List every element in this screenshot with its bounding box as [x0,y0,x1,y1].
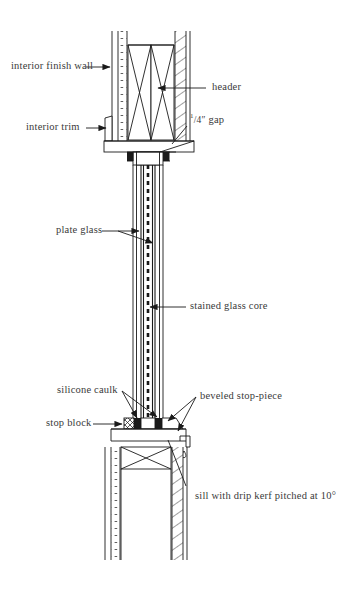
wall-cavity-lower [121,469,171,560]
drawing-canvas [0,0,354,595]
label-beveled-stop-piece: beveled stop-piece [200,391,282,402]
exterior-sheathing-lower [172,447,187,560]
label-sill-drip-kerf: sill with drip kerf pitched at 10° [195,491,336,502]
label-stained-glass-core: stained glass core [190,301,268,312]
interior-trim-piece [105,116,112,141]
head-glazing-pocket [127,152,170,165]
label-plate-glass: plate glass [56,225,102,236]
label-stop-block: stop block [46,418,91,429]
label-interior-finish-wall: interior finish wall [11,61,93,72]
sill-assembly [111,418,190,447]
label-quarter-gap: 1/4″ gap [190,113,224,125]
label-interior-trim: interior trim [26,122,80,133]
glass-assembly [133,165,163,418]
head-trim-board [104,141,194,152]
exterior-sheathing-upper [175,31,190,141]
section-drawing: interior finish wall header interior tri… [0,0,354,595]
sill-framing-member [121,447,171,469]
interior-finish-wall-upper [112,31,127,141]
interior-finish-wall-lower [105,447,120,560]
label-silicone-caulk: silicone caulk [57,385,118,396]
gap-suffix: gap [206,114,225,125]
gap-denominator: /4″ [194,115,206,125]
label-header: header [212,82,241,93]
header-member [128,45,174,140]
